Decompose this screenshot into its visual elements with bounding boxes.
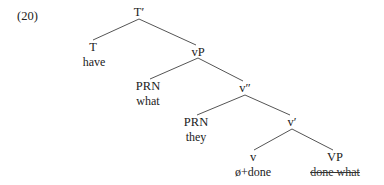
node-v-double-bar: v″ [239, 81, 250, 95]
node-tbar: T′ [134, 5, 144, 19]
edge-vp-vdoublebar [198, 58, 243, 81]
edge-vdoublebar-prn2 [197, 95, 245, 115]
node-vp-small: vP [191, 45, 204, 59]
node-v: v [250, 150, 256, 164]
edge-vp-prn1 [150, 58, 198, 79]
word-done-what-deleted: done what [310, 165, 360, 179]
edge-tbar-t [93, 19, 139, 40]
node-t: T [89, 40, 97, 54]
node-vp-big: VP [327, 150, 343, 164]
word-they: they [186, 130, 207, 144]
word-what: what [136, 94, 159, 108]
node-v-bar: v′ [288, 115, 297, 129]
edge-vbar-vp [292, 129, 333, 150]
node-prn-what: PRN [136, 79, 160, 93]
word-null-plus-done: ø+done [235, 165, 271, 179]
edge-vdoublebar-vbar [245, 95, 290, 115]
edge-tbar-vp [139, 19, 196, 45]
edge-vbar-v [254, 129, 292, 150]
node-prn-they: PRN [184, 115, 208, 129]
word-have: have [83, 55, 106, 69]
